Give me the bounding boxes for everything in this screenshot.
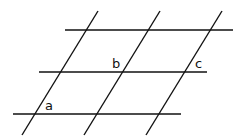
label-b: b [112,57,120,70]
label-a: a [45,99,53,112]
transversal-line-1 [22,11,98,135]
label-c: c [195,57,202,70]
parallel-lines-diagram: a b c [0,0,238,138]
